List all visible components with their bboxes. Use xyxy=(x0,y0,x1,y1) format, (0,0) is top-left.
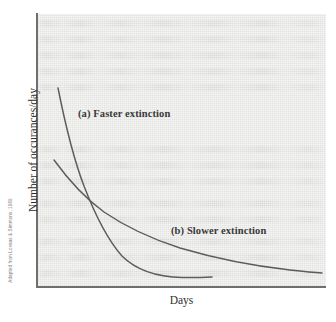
curve-a-label: (a) Faster extinction xyxy=(78,108,170,119)
curves-layer xyxy=(0,0,336,322)
figure-credit: Adapted from Lovaas & Simmons, 1969 xyxy=(8,195,13,287)
y-axis-label: Number of occurances/day xyxy=(27,60,39,240)
extinction-curves-figure: (a) Faster extinction (b) Slower extinct… xyxy=(0,0,336,322)
x-axis-label: Days xyxy=(37,294,326,306)
curve-b-slower-extinction xyxy=(54,160,322,273)
curve-b-label: (b) Slower extinction xyxy=(171,225,266,236)
